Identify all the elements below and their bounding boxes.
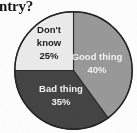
pie-label-bad-thing: Bad thing [39, 83, 83, 94]
pie-chart: Good thing 40% Bad thing 35% Don't know … [14, 11, 133, 130]
pie-value-good-thing: 40% [87, 64, 107, 75]
pie-label-dont-know-line2: know [37, 37, 62, 48]
pie-label-dont-know-line1: Don't [37, 24, 62, 35]
pie-chart-svg: Good thing 40% Bad thing 35% Don't know … [14, 11, 133, 130]
pie-label-good-thing: Good thing [72, 51, 123, 62]
pie-chart-figure: ntry? Good thing 40% Bad thing 35% Don't… [0, 0, 137, 133]
pie-value-dont-know: 25% [39, 50, 59, 61]
pie-value-bad-thing: 35% [51, 96, 71, 107]
